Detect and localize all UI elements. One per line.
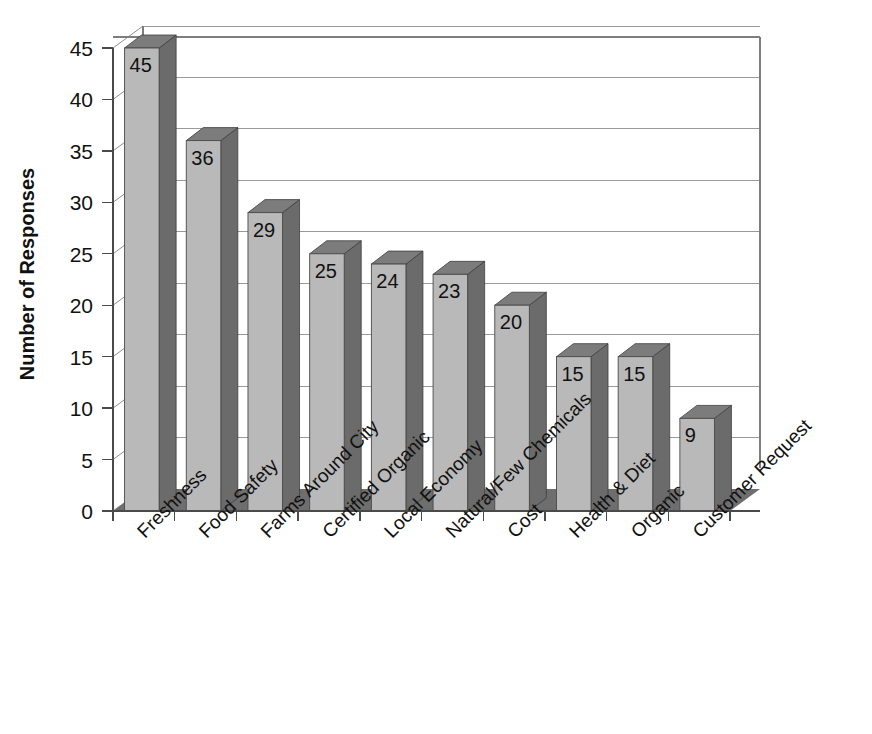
- bar-side-face: [159, 35, 176, 511]
- bar-side-face: [221, 128, 238, 511]
- bar-side-face: [468, 261, 485, 511]
- y-axis-tick-labels: 051015202530354045: [70, 37, 93, 523]
- bar-2: [186, 128, 238, 511]
- bar-front-face: [186, 141, 221, 511]
- bar-value-label: 15: [623, 363, 645, 385]
- bar-1: [125, 35, 177, 511]
- y-axis-tick-label: 0: [81, 500, 93, 523]
- bar-value-label: 36: [191, 147, 213, 169]
- y-axis-tick-label: 45: [70, 37, 93, 60]
- bar-value-label: 23: [438, 280, 460, 302]
- bar-value-label: 9: [685, 424, 696, 446]
- bar-value-label: 45: [130, 54, 152, 76]
- y-axis-tick-label: 35: [70, 140, 93, 163]
- y-axis-tick-label: 25: [70, 243, 93, 266]
- y-axis-tick-label: 30: [70, 191, 93, 214]
- y-axis-title: Number of Responses: [16, 168, 38, 380]
- y-axis-tick-label: 20: [70, 294, 93, 317]
- bar-value-label: 29: [253, 219, 275, 241]
- y-axis-tick-label: 40: [70, 88, 93, 111]
- bar-side-face: [283, 200, 300, 511]
- y-axis-tick-label: 10: [70, 397, 93, 420]
- bar-side-face: [406, 251, 423, 511]
- bar-front-face: [125, 48, 160, 511]
- bar-value-label: 24: [376, 270, 398, 292]
- bar-side-face: [529, 292, 546, 511]
- y-axis-tick-label: 15: [70, 346, 93, 369]
- bar-side-face: [344, 241, 361, 511]
- bar-value-label: 15: [561, 363, 583, 385]
- chart-canvas: 051015202530354045 FreshnessFood SafetyF…: [0, 0, 872, 734]
- y-axis-ticks: [102, 48, 113, 511]
- bar-value-label: 25: [315, 260, 337, 282]
- bar-chart-figure: 051015202530354045 FreshnessFood SafetyF…: [0, 0, 872, 734]
- y-axis-tick-label: 5: [81, 449, 93, 472]
- bar-value-label: 20: [500, 311, 522, 333]
